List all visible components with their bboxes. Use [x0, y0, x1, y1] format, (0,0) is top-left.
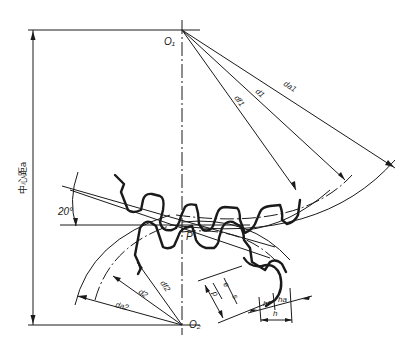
addendum-label: ha	[278, 295, 287, 304]
space-width-label: e	[221, 281, 231, 290]
lower-da-label: da2	[114, 300, 130, 312]
tooth-detail: e p s hf ha h	[198, 258, 312, 323]
upper-df-label: df1	[232, 94, 246, 108]
center-distance-label: 中心距a	[17, 162, 28, 195]
upper-gear-dimensions: da1 d1 df1	[182, 30, 395, 190]
pressure-angle: 20°	[57, 172, 275, 258]
center-o2-label: O₂	[189, 319, 201, 330]
gear-mesh-diagram: 中心距a O₁ O₂ da1 d1 df1 da2 d	[0, 0, 411, 350]
upper-da-label: da1	[282, 79, 298, 94]
lower-df-label: df2	[158, 279, 172, 294]
tooth-height-label: h	[273, 309, 278, 318]
dedendum-label: hf	[263, 299, 270, 308]
lower-d-label: d2	[137, 287, 150, 300]
pitch-point-label: P	[186, 231, 193, 242]
upper-gear-circles	[172, 160, 395, 230]
center-distance-dimension: 中心距a	[17, 30, 200, 325]
lower-gear-dimensions: da2 d2 df2	[77, 262, 182, 325]
center-o1-label: O₁	[164, 36, 175, 47]
pressure-angle-label: 20°	[57, 206, 73, 217]
